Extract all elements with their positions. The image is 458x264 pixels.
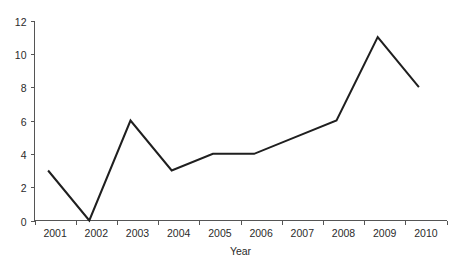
chart-background [0,0,458,264]
y-axis-tick-label: 12 [15,16,27,28]
y-axis-tick-label: 4 [21,149,27,161]
x-axis-tick-label: 2008 [332,227,356,239]
x-axis-tick-label: 2005 [208,227,232,239]
x-axis-tick-label: 2004 [167,227,191,239]
y-axis-tick-label: 6 [21,116,27,128]
x-axis-tick-label: 2006 [249,227,273,239]
y-axis-tick-label: 2 [21,182,27,194]
x-axis-tick-label: 2003 [126,227,150,239]
y-axis-tick-label: 10 [15,49,27,61]
line-chart-figure: 024681012 200120022003200420052006200720… [0,0,458,264]
y-axis-tick-label: 8 [21,82,27,94]
x-axis-tick-label: 2002 [85,227,109,239]
y-axis-tick-label: 0 [21,216,27,228]
x-axis-tick-label: 2009 [373,227,397,239]
x-axis-tick-label: 2010 [414,227,438,239]
x-axis-tick-label: 2007 [291,227,315,239]
chart-canvas: 024681012 200120022003200420052006200720… [0,0,458,264]
x-axis-title: Year [230,245,252,257]
x-axis-tick-label: 2001 [43,227,67,239]
